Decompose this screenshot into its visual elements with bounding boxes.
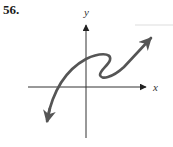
relation-curve xyxy=(47,38,151,120)
x-axis-label: x xyxy=(152,81,158,93)
curve-start-arrow xyxy=(47,108,50,122)
graph: x y xyxy=(0,0,173,147)
y-axis-label: y xyxy=(83,6,89,18)
